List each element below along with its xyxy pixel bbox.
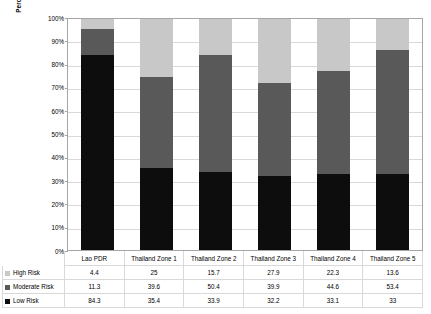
table-cell: 32.2 — [243, 294, 303, 308]
bar-segment[interactable] — [317, 71, 349, 174]
stacked-bar[interactable] — [376, 19, 408, 250]
y-tick-label: 40% — [40, 154, 64, 161]
y-tick-label: 100% — [40, 15, 64, 22]
y-tick-label: 50% — [40, 131, 64, 138]
table-cell: 4.4 — [65, 266, 125, 280]
bar-segment[interactable] — [81, 55, 113, 250]
y-tick-label: 30% — [40, 178, 64, 185]
stacked-bar[interactable] — [81, 19, 113, 250]
table-column-header: Thailand Zone 3 — [243, 252, 303, 266]
legend-label: Moderate Risk — [13, 283, 54, 290]
table-cell: 44.6 — [303, 280, 363, 294]
table-cell: 35.4 — [124, 294, 184, 308]
table-column-header: Thailand Zone 2 — [184, 252, 244, 266]
table-header-row: Lao PDRThailand Zone 1Thailand Zone 2Tha… — [3, 252, 423, 266]
y-axis-title: Percentage of households surveyed — [12, 0, 26, 52]
y-tick-label: 20% — [40, 201, 64, 208]
table-cell: 33 — [363, 294, 423, 308]
bars-layer — [68, 19, 422, 250]
table-cell: 25 — [124, 266, 184, 280]
bar-segment[interactable] — [376, 50, 408, 173]
table-corner-cell — [3, 252, 65, 266]
table-cell: 15.7 — [184, 266, 244, 280]
table-cell: 39.9 — [243, 280, 303, 294]
stacked-bar-chart-figure: Percentage of households surveyed 100%90… — [0, 0, 431, 314]
bar-segment[interactable] — [317, 19, 349, 71]
bar-slot — [245, 19, 304, 250]
stacked-bar[interactable] — [140, 19, 172, 250]
y-axis-tick-labels: 100%90%80%70%60%50%40%30%20%10%0% — [38, 18, 64, 251]
table-cell: 13.6 — [363, 266, 423, 280]
y-tick-label: 80% — [40, 61, 64, 68]
bar-segment[interactable] — [199, 172, 231, 250]
bar-segment[interactable] — [140, 168, 172, 250]
table-column-header: Thailand Zone 1 — [124, 252, 184, 266]
y-tick-label: 90% — [40, 38, 64, 45]
y-tick-label: 60% — [40, 108, 64, 115]
stacked-bar[interactable] — [258, 19, 290, 250]
table-column-header: Thailand Zone 5 — [363, 252, 423, 266]
legend-label: High Risk — [13, 269, 40, 276]
bar-slot — [68, 19, 127, 250]
y-tick-label: 70% — [40, 84, 64, 91]
table-row: High Risk4.42515.727.922.313.6 — [3, 266, 423, 280]
bar-segment[interactable] — [317, 174, 349, 250]
bar-slot — [304, 19, 363, 250]
table-cell: 39.6 — [124, 280, 184, 294]
table-column-header: Thailand Zone 4 — [303, 252, 363, 266]
bar-segment[interactable] — [376, 174, 408, 250]
legend-entry: High Risk — [3, 266, 65, 280]
bar-segment[interactable] — [140, 77, 172, 168]
legend-entry: Moderate Risk — [3, 280, 65, 294]
bar-slot — [363, 19, 422, 250]
bar-segment[interactable] — [140, 19, 172, 77]
bar-slot — [127, 19, 186, 250]
table-row: Moderate Risk11.339.650.439.944.653.4 — [3, 280, 423, 294]
stacked-bar[interactable] — [199, 19, 231, 250]
table-cell: 50.4 — [184, 280, 244, 294]
table-cell: 53.4 — [363, 280, 423, 294]
legend-entry: Low Risk — [3, 294, 65, 308]
bar-segment[interactable] — [258, 176, 290, 250]
data-table-body: Lao PDRThailand Zone 1Thailand Zone 2Tha… — [3, 252, 423, 308]
bar-segment[interactable] — [199, 19, 231, 55]
table-cell: 33.9 — [184, 294, 244, 308]
legend-label: Low Risk — [13, 297, 39, 304]
bar-slot — [186, 19, 245, 250]
legend-swatch-icon — [5, 271, 10, 276]
table-cell: 33.1 — [303, 294, 363, 308]
table-row: Low Risk84.335.433.932.233.133 — [3, 294, 423, 308]
stacked-bar[interactable] — [317, 19, 349, 250]
data-table: Lao PDRThailand Zone 1Thailand Zone 2Tha… — [2, 251, 423, 308]
table-cell: 84.3 — [65, 294, 125, 308]
y-tick-label: 10% — [40, 224, 64, 231]
plot-area — [67, 18, 423, 251]
bar-segment[interactable] — [258, 83, 290, 175]
bar-segment[interactable] — [258, 19, 290, 83]
legend-swatch-icon — [5, 299, 10, 304]
table-cell: 11.3 — [65, 280, 125, 294]
table-cell: 22.3 — [303, 266, 363, 280]
table-column-header: Lao PDR — [65, 252, 125, 266]
bar-segment[interactable] — [81, 19, 113, 29]
bar-segment[interactable] — [81, 29, 113, 55]
table-cell: 27.9 — [243, 266, 303, 280]
bar-segment[interactable] — [199, 55, 231, 171]
legend-swatch-icon — [5, 285, 10, 290]
bar-segment[interactable] — [376, 19, 408, 50]
